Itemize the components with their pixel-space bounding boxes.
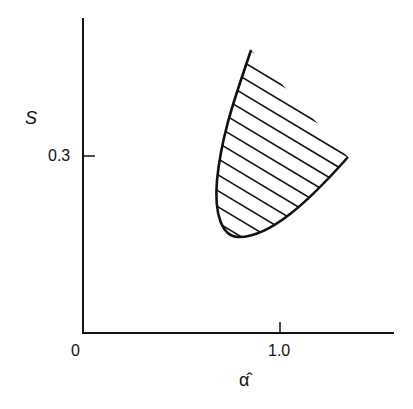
x-axis-label: α̂: [239, 370, 249, 391]
chart-canvas: [0, 0, 413, 409]
region-boundary: [216, 50, 348, 237]
y-axis-label: S: [25, 108, 37, 129]
x-tick-label-1: 1.0: [268, 342, 290, 360]
hatch-fill: [200, 20, 400, 348]
y-tick-label: 0.3: [48, 147, 70, 165]
x-tick-label-0: 0: [71, 342, 80, 360]
